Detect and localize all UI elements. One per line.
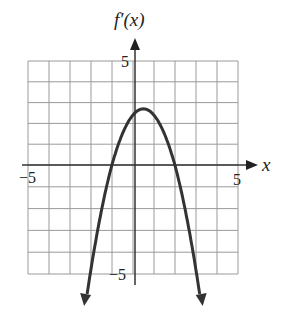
y-max-tick-label: 5: [121, 53, 129, 70]
grid: [28, 61, 238, 274]
y-axis-label: f′(x): [114, 9, 145, 31]
y-axis: [130, 38, 140, 285]
y-min-tick-label: −5: [109, 266, 126, 283]
curve-left-arrow-icon: [80, 293, 91, 306]
curve-right-arrow-icon: [196, 293, 207, 306]
parabola-curve: [87, 109, 200, 294]
x-axis: [22, 160, 258, 170]
x-min-tick-label: −5: [19, 169, 36, 186]
x-max-tick-label: 5: [233, 171, 241, 188]
x-axis-label: x: [261, 154, 271, 175]
derivative-graph: f′(x) x −5 5 5 −5: [0, 0, 285, 311]
x-axis-arrow-icon: [246, 160, 258, 170]
y-axis-arrow-icon: [130, 38, 140, 50]
